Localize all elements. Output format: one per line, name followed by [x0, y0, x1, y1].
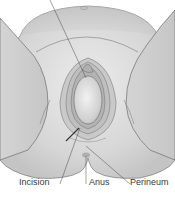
incision-label: Incision	[19, 178, 50, 187]
perineum-label: Perineum	[130, 178, 169, 187]
anus-label: Anus	[89, 178, 110, 187]
fetal-head	[74, 76, 102, 124]
anatomy-diagram: Incision Anus Perineum	[0, 0, 175, 206]
diagram-illustration	[0, 0, 175, 206]
